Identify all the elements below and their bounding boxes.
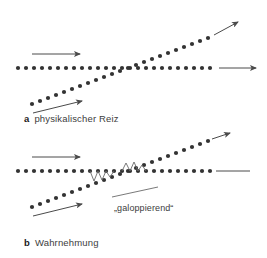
panel-a-caption: aphysikalischer Reiz <box>24 113 119 124</box>
panel-a-caption-text: physikalischer Reiz <box>34 113 118 124</box>
horizontal-dot-track-a <box>16 66 212 70</box>
diagonal-dot-track-a <box>30 36 210 106</box>
track-arrow-upright-b <box>212 133 230 139</box>
panel-b-caption: bWahrnehmung <box>24 237 99 248</box>
gallop-annotation: „galoppierend“ <box>114 203 173 213</box>
annotation-leader-line <box>112 187 158 197</box>
figure-root: aphysikalischer Reiz <box>0 0 267 258</box>
track-arrow-upright-a <box>214 22 238 35</box>
panel-a-marker: a <box>24 113 29 124</box>
panel-b-marker: b <box>24 237 30 248</box>
diagonal-dot-track-b <box>30 139 210 209</box>
panel-a-physical-stimulus <box>0 0 267 129</box>
panel-b-caption-text: Wahrnehmung <box>35 237 99 248</box>
